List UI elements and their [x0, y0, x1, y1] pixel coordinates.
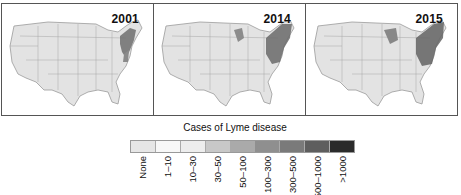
legend-color-bar [130, 140, 355, 153]
legend-swatch-30-50 [206, 141, 231, 152]
legend-swatch-300-500 [280, 141, 305, 152]
legend-label: 1–10 [162, 156, 173, 177]
legend-swatch-50-100 [231, 141, 256, 152]
legend-label: 300–500 [287, 156, 298, 193]
map-panel-2001: 2001 [2, 4, 153, 115]
legend-label: 500–1000 [312, 156, 323, 195]
legend-label: None [137, 156, 148, 179]
map-panels: 2001 2014 2015 [1, 3, 458, 116]
year-label: 2015 [416, 12, 444, 26]
legend-swatch-10-30 [181, 141, 206, 152]
map-panel-2014: 2014 [153, 4, 305, 115]
legend-label: 30–50 [212, 156, 223, 182]
us-map-2015 [312, 16, 450, 112]
map-panel-2015: 2015 [305, 4, 457, 115]
legend-swatch-100-300 [255, 141, 280, 152]
year-label: 2014 [264, 12, 292, 26]
year-label: 2001 [112, 12, 140, 26]
legend-swatch-500-1000 [305, 141, 330, 152]
legend-title: Cases of Lyme disease [120, 122, 350, 133]
legend-label: 100–300 [262, 156, 273, 193]
legend-labels: None 1–10 10–30 30–50 50–100 100–300 300… [130, 156, 355, 195]
legend-label: 10–30 [187, 156, 198, 182]
legend-swatch-1-10 [156, 141, 181, 152]
legend-label: 50–100 [237, 156, 248, 188]
legend-label: >1000 [337, 156, 348, 183]
us-map-2001 [8, 16, 146, 112]
us-map-2014 [160, 16, 298, 112]
legend-swatch-gt-1000 [330, 141, 354, 152]
legend-swatch-none [131, 141, 156, 152]
